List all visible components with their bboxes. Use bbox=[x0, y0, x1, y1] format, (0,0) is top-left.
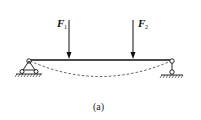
svg-text:1: 1 bbox=[64, 24, 67, 30]
pin-support-icon bbox=[15, 59, 42, 77]
svg-text:2: 2 bbox=[145, 24, 148, 30]
roller-support-icon bbox=[160, 59, 183, 78]
figure-caption: (a) bbox=[93, 101, 104, 113]
deflection-curve bbox=[30, 61, 171, 77]
force-arrow-f2 bbox=[131, 20, 136, 59]
force-label-f2: F 2 bbox=[137, 17, 148, 30]
force-arrow-f1 bbox=[67, 20, 72, 59]
beam-diagram: F 1 F 2 bbox=[0, 0, 201, 120]
force-label-f1: F 1 bbox=[56, 17, 67, 30]
